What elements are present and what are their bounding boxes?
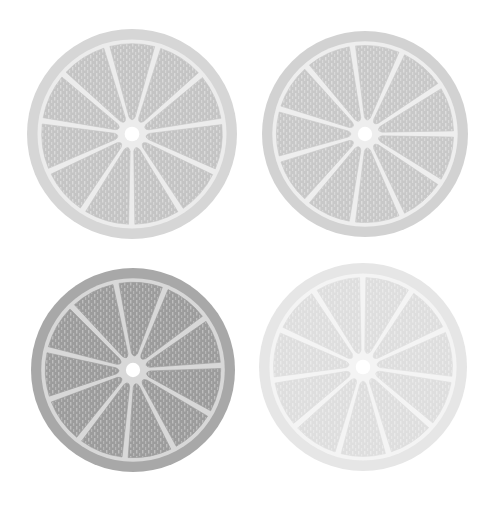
core [126,363,140,377]
citrus-slice-top-right [258,27,472,241]
core [356,360,371,375]
citrus-slice-top-left [23,25,241,243]
core [358,127,372,141]
citrus-slice-bottom-right [255,259,471,475]
core [125,127,140,142]
citrus-slice-bottom-left [27,264,239,476]
